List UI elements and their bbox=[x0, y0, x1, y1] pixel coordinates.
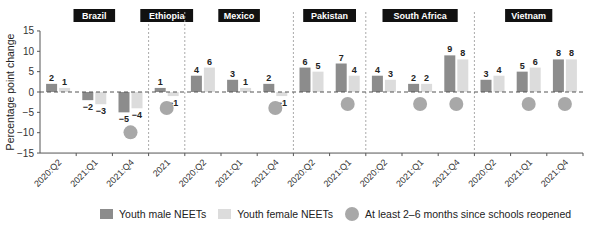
value-label-male: 5 bbox=[520, 61, 525, 71]
value-label-female: 1 bbox=[243, 77, 248, 87]
x-tick-label: 2021:Q4 bbox=[249, 157, 280, 188]
x-tick-label: 2020:Q2 bbox=[32, 157, 63, 188]
value-label-female: 8 bbox=[569, 48, 574, 58]
x-tick-label: 2021:Q1 bbox=[68, 157, 99, 188]
value-label-male: 8 bbox=[556, 48, 561, 58]
bar-male bbox=[481, 80, 492, 92]
bar-female bbox=[530, 68, 541, 92]
value-label-female: 4 bbox=[352, 65, 357, 75]
bar-female bbox=[59, 88, 70, 92]
country-label: Brazil bbox=[82, 11, 107, 21]
bar-male bbox=[263, 84, 274, 92]
bar-female bbox=[240, 88, 251, 92]
y-tick-label: 5 bbox=[28, 66, 34, 77]
y-tick-label: 0 bbox=[28, 87, 34, 98]
value-label-female: 4 bbox=[496, 65, 501, 75]
value-label-female: 8 bbox=[460, 48, 465, 58]
x-tick-label: 2020:Q2 bbox=[177, 157, 208, 188]
legend-label-reopened: At least 2–6 months since schools reopen… bbox=[365, 208, 571, 220]
bar-female bbox=[421, 84, 432, 92]
bar-male bbox=[336, 64, 347, 92]
x-tick-label: 2020:Q2 bbox=[358, 157, 389, 188]
bar-female bbox=[95, 92, 106, 104]
value-label-female: −3 bbox=[96, 106, 106, 116]
bar-female bbox=[385, 80, 396, 92]
y-tick-label: −15 bbox=[17, 148, 34, 159]
bar-male bbox=[155, 88, 166, 92]
bar-female bbox=[566, 59, 577, 92]
legend-label-female: Youth female NEETs bbox=[237, 208, 333, 220]
bar-male bbox=[191, 76, 202, 92]
legend-item-male: Youth male NEETs bbox=[100, 208, 206, 220]
reopened-marker bbox=[449, 97, 463, 111]
value-label-male: 4 bbox=[194, 65, 199, 75]
value-label-male: 4 bbox=[375, 65, 380, 75]
value-label-male: 6 bbox=[302, 57, 307, 67]
y-tick-label: −5 bbox=[23, 107, 35, 118]
legend-item-female: Youth female NEETs bbox=[218, 208, 333, 220]
bar-male bbox=[372, 76, 383, 92]
reopened-marker bbox=[124, 125, 138, 139]
reopened-marker bbox=[268, 101, 282, 115]
reopened-marker bbox=[413, 97, 427, 111]
x-tick-label: 2021 bbox=[151, 157, 172, 178]
x-tick-label: 2021:Q4 bbox=[539, 157, 570, 188]
reopened-marker bbox=[558, 97, 572, 111]
x-tick-label: 2021:Q4 bbox=[430, 157, 461, 188]
bar-male bbox=[119, 92, 130, 112]
value-label-male: 7 bbox=[339, 53, 344, 63]
x-tick-label: 2021:Q1 bbox=[213, 157, 244, 188]
value-label-female: 6 bbox=[207, 57, 212, 67]
x-tick-label: 2020:Q2 bbox=[285, 157, 316, 188]
value-label-male: 2 bbox=[49, 73, 54, 83]
value-label-female: 2 bbox=[424, 73, 429, 83]
x-tick-label: 2021:Q1 bbox=[394, 157, 425, 188]
bar-male bbox=[517, 72, 528, 92]
country-label: Ethiopia bbox=[149, 11, 185, 21]
bar-male bbox=[444, 55, 455, 92]
value-label-female: 3 bbox=[388, 69, 393, 79]
x-tick-label: 2021:Q4 bbox=[104, 157, 135, 188]
value-label-female: −4 bbox=[132, 110, 142, 120]
y-tick-label: −10 bbox=[17, 127, 34, 138]
bar-female bbox=[204, 68, 215, 92]
value-label-female: 6 bbox=[533, 57, 538, 67]
bar-male bbox=[553, 59, 564, 92]
bar-male bbox=[408, 84, 419, 92]
legend: Youth male NEETs Youth female NEETs At l… bbox=[100, 207, 583, 221]
value-label-male: 3 bbox=[483, 69, 488, 79]
value-label-male: 9 bbox=[447, 44, 452, 54]
male-swatch-icon bbox=[100, 209, 113, 219]
bar-male bbox=[46, 84, 57, 92]
x-tick-label: 2021:Q1 bbox=[322, 157, 353, 188]
bar-female bbox=[349, 76, 360, 92]
bar-female bbox=[132, 92, 143, 108]
x-tick-label: 2021:Q1 bbox=[503, 157, 534, 188]
country-label: South Africa bbox=[394, 11, 448, 21]
bar-male bbox=[300, 68, 311, 92]
country-label: Vietnam bbox=[511, 11, 546, 21]
value-label-male: 2 bbox=[411, 73, 416, 83]
legend-label-male: Youth male NEETs bbox=[119, 208, 206, 220]
country-label: Mexico bbox=[224, 11, 255, 21]
value-label-female: 1 bbox=[62, 77, 67, 87]
value-label-male: 2 bbox=[266, 73, 271, 83]
bar-female bbox=[276, 92, 287, 96]
bar-male bbox=[82, 92, 93, 100]
country-label: Pakistan bbox=[311, 11, 348, 21]
reopened-marker bbox=[522, 97, 536, 111]
chart: 151050−5−10−15Percentage point changeBra… bbox=[0, 0, 591, 205]
bar-female bbox=[313, 72, 324, 92]
reopened-marker bbox=[341, 97, 355, 111]
female-swatch-icon bbox=[218, 209, 231, 219]
y-tick-label: 10 bbox=[23, 46, 35, 57]
value-label-male: 1 bbox=[158, 77, 163, 87]
x-tick-label: 2020:Q2 bbox=[466, 157, 497, 188]
bar-female bbox=[168, 92, 179, 96]
y-tick-label: 15 bbox=[23, 25, 35, 36]
circle-marker-icon bbox=[345, 207, 359, 221]
bar-male bbox=[227, 80, 238, 92]
legend-item-reopened: At least 2–6 months since schools reopen… bbox=[345, 207, 571, 221]
reopened-marker bbox=[160, 101, 174, 115]
value-label-male: −2 bbox=[83, 102, 93, 112]
